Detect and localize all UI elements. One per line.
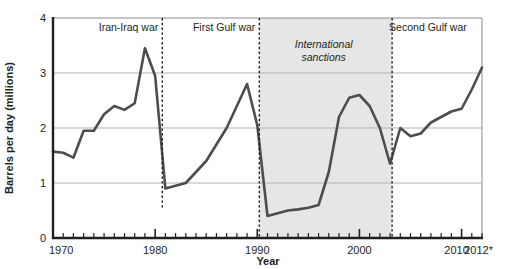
annotation-label-second-gulf-war: Second Gulf war	[389, 21, 467, 33]
x-axis-title: Year	[256, 255, 280, 267]
chart-canvas: 01234 197019801990200020102012* Iran-Ira…	[0, 0, 515, 269]
y-axis-title: Barrels per day (millions)	[3, 62, 15, 194]
x-tick-label-2012est: 2012*	[464, 244, 493, 256]
y-tick-label-3: 3	[40, 67, 46, 79]
y-tick-label-4: 4	[40, 12, 46, 24]
annotation-label-first-gulf-war: First Gulf war	[193, 21, 256, 33]
band-label-international-sanctions-line1: International	[295, 38, 353, 50]
y-axis-tick-labels-group: 01234	[40, 12, 46, 244]
y-tick-label-0: 0	[40, 232, 46, 244]
y-tick-label-1: 1	[40, 177, 46, 189]
annotation-label-iran-iraq-war: Iran-Iraq war	[99, 21, 159, 33]
x-tick-label-1980: 1980	[143, 244, 167, 256]
oil-production-chart: 01234 197019801990200020102012* Iran-Ira…	[0, 0, 515, 269]
band-label-international-sanctions-line2: sanctions	[301, 51, 346, 63]
x-tick-label-2000: 2000	[347, 244, 371, 256]
y-tick-label-2: 2	[40, 122, 46, 134]
x-tick-label-1970: 1970	[49, 244, 73, 256]
